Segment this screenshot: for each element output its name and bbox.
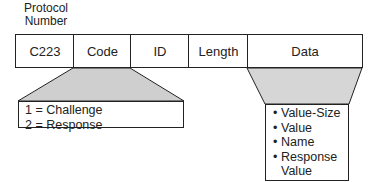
- data-item: •Value: [273, 121, 348, 136]
- data-item: •Name: [273, 135, 348, 150]
- field-code: Code: [73, 34, 131, 68]
- data-item: •ResponseValue: [273, 150, 348, 179]
- code-value-challenge: 1 = Challenge: [25, 103, 183, 118]
- data-trapezoid: [247, 68, 362, 104]
- field-data: Data: [247, 34, 363, 68]
- data-items-box: •Value-Size •Value •Name •ResponseValue: [265, 104, 349, 181]
- code-value-response: 2 = Response: [25, 118, 183, 133]
- code-values-box: 1 = Challenge 2 = Response: [18, 101, 184, 128]
- field-id: ID: [130, 34, 189, 68]
- field-c223: C223: [15, 34, 74, 68]
- code-trapezoid: [18, 68, 184, 101]
- field-length: Length: [188, 34, 248, 68]
- data-item: •Value-Size: [273, 106, 348, 121]
